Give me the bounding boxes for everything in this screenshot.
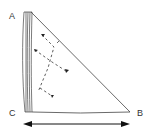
layered-edge-ac xyxy=(23,12,32,112)
double-arrow xyxy=(23,121,130,127)
label-a: A xyxy=(9,11,15,21)
dashed-arrows xyxy=(35,35,66,96)
tick-mark xyxy=(57,41,59,43)
label-c: C xyxy=(9,108,16,118)
triangle-diagram: A C B xyxy=(0,0,151,138)
label-b: B xyxy=(137,108,143,118)
triangle-outline xyxy=(31,12,130,113)
